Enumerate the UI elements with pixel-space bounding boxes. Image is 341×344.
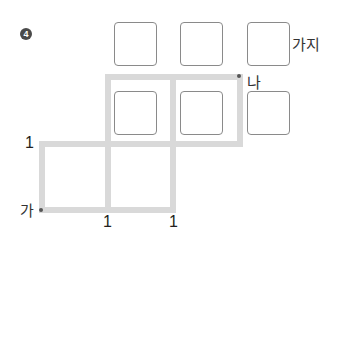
end-point-dot	[237, 74, 241, 78]
answer-box-top-1[interactable]	[114, 22, 157, 66]
count-label-bottom-right: 1	[169, 214, 178, 230]
answer-box-mid-2[interactable]	[180, 91, 223, 135]
answer-box-mid-1[interactable]	[114, 91, 157, 135]
end-point-label: 나	[247, 75, 261, 91]
answer-box-mid-3[interactable]	[247, 91, 290, 135]
start-point-label: 가	[20, 203, 34, 219]
start-point-dot	[39, 208, 43, 212]
count-label-bottom-middle: 1	[103, 214, 112, 230]
answer-box-total[interactable]	[247, 22, 290, 66]
answer-box-top-2[interactable]	[180, 22, 223, 66]
count-label-left-top: 1	[25, 135, 34, 151]
answer-unit-label: 가지	[292, 36, 320, 54]
